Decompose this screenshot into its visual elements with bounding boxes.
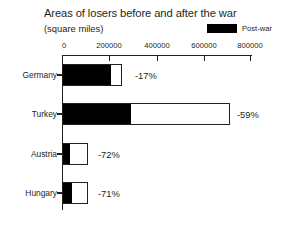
category-label-wrap-germany: Germany: [0, 63, 57, 87]
category-label-germany: Germany: [23, 70, 57, 80]
xtick-label-4: 800000: [237, 41, 262, 50]
xtick-mark-1: [109, 56, 110, 61]
bar-austria-post-war: [63, 144, 70, 164]
xtick-label-2: 400000: [144, 41, 169, 50]
bar-hungary-pre-war: [62, 182, 88, 204]
bar-turkey-pre-war: [62, 103, 230, 125]
bar-row-hungary: Hungary -71%: [0, 181, 282, 205]
xtick-label-3: 600000: [191, 41, 216, 50]
bar-annotation-turkey: -59%: [237, 109, 259, 120]
plot-area: 0 200000 400000 600000 800000 Germany -1…: [0, 0, 282, 235]
xtick-label-0: 0: [62, 41, 66, 50]
bar-annotation-austria: -72%: [98, 149, 120, 160]
xtick-mark-2: [157, 56, 158, 61]
category-label-austria: Austria: [31, 149, 57, 159]
category-label-turkey: Turkey: [32, 109, 57, 119]
bar-row-germany: Germany -17%: [0, 63, 282, 87]
xtick-mark-3: [204, 56, 205, 61]
category-label-wrap-austria: Austria: [0, 142, 57, 166]
bar-hungary-post-war: [63, 183, 72, 203]
bar-austria-pre-war: [62, 143, 88, 165]
bar-row-austria: Austria -72%: [0, 142, 282, 166]
category-label-wrap-hungary: Hungary: [0, 181, 57, 205]
bar-annotation-germany: -17%: [135, 70, 157, 81]
xtick-mark-4: [250, 56, 251, 61]
xtick-label-1: 200000: [96, 41, 121, 50]
category-label-hungary: Hungary: [25, 188, 57, 198]
bar-germany-pre-war: [62, 64, 122, 86]
bar-germany-post-war: [63, 65, 111, 85]
category-label-wrap-turkey: Turkey: [0, 102, 57, 126]
bar-annotation-hungary: -71%: [98, 188, 120, 199]
bar-row-turkey: Turkey -59%: [0, 102, 282, 126]
bar-turkey-post-war: [63, 104, 131, 124]
chart-container: Areas of losers before and after the war…: [0, 0, 282, 235]
